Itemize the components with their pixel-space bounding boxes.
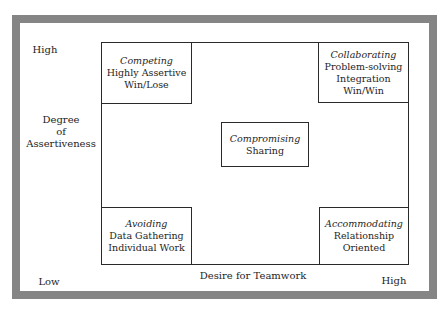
style-line: Individual Work	[108, 242, 184, 254]
y-axis-title-line: Assertiveness	[26, 138, 96, 150]
style-line: Sharing	[246, 145, 284, 157]
style-line: Integration	[336, 73, 390, 85]
y-axis-high-label: High	[30, 44, 60, 56]
style-line: Problem-solving	[325, 61, 403, 73]
style-box-competing: Competing Highly Assertive Win/Lose	[101, 42, 192, 104]
style-title: Accommodating	[325, 218, 403, 230]
style-title: Collaborating	[331, 49, 397, 61]
style-line: Data Gathering	[109, 230, 183, 242]
y-axis-title: Degree of Assertiveness	[26, 114, 96, 150]
style-title: Avoiding	[126, 218, 168, 230]
style-box-accommodating: Accommodating Relationship Oriented	[319, 207, 409, 265]
style-title: Competing	[120, 55, 173, 67]
style-title: Compromising	[230, 133, 301, 145]
x-axis-title: Desire for Teamwork	[193, 270, 313, 282]
style-box-collaborating: Collaborating Problem-solving Integratio…	[318, 42, 409, 103]
style-box-avoiding: Avoiding Data Gathering Individual Work	[101, 207, 192, 265]
style-line: Win/Lose	[124, 79, 168, 91]
x-axis-low-label: Low	[34, 276, 64, 288]
y-axis-title-line: of	[26, 126, 96, 138]
style-line: Win/Win	[343, 85, 384, 97]
x-axis-high-label: High	[379, 275, 409, 287]
style-line: Oriented	[343, 242, 386, 254]
y-axis-title-line: Degree	[26, 114, 96, 126]
style-line: Relationship	[334, 230, 394, 242]
style-box-compromising: Compromising Sharing	[221, 122, 309, 167]
style-line: Highly Assertive	[107, 67, 187, 79]
